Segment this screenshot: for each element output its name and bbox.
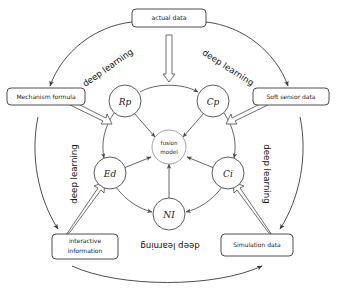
cp-label: Cp — [207, 97, 220, 107]
inner-node-ci[interactable]: Ci — [212, 157, 244, 189]
diagram-svg: actual data Mechanism formula Soft senso… — [0, 0, 337, 290]
fusion-model-label-line1: fusion — [161, 140, 178, 146]
arc-label-deep-learning-top-left: deep learning — [81, 46, 135, 88]
outer-box-interactive-information[interactable]: interactive information — [52, 234, 118, 259]
ed-label: Ed — [103, 169, 117, 179]
outer-box-simulation-data[interactable]: Simulation data — [221, 234, 293, 256]
block-arrow-actual-to-inner — [163, 35, 175, 82]
outer-box-mechanism-formula[interactable]: Mechanism formula — [7, 88, 85, 105]
arc-label-deep-learning-left: deep learning — [69, 144, 79, 203]
arc-label-deep-learning-right: deep learning — [262, 144, 272, 203]
outer-box-soft-sensor-data[interactable]: Soft sensor data — [253, 88, 329, 105]
outer-arc-mechanism-to-interactive — [35, 117, 58, 229]
interactive-information-label-line1: interactive — [69, 237, 102, 244]
inner-node-cp[interactable]: Cp — [197, 85, 229, 117]
arc-label-deep-learning-top-right: deep learning — [201, 47, 256, 88]
inner-arc-rp-to-cp — [140, 85, 198, 92]
diagram-canvas: actual data Mechanism formula Soft senso… — [0, 0, 337, 290]
inner-node-rp[interactable]: Rp — [109, 85, 141, 117]
fusion-model-label-line2: model — [160, 149, 178, 155]
spoke-cp-to-fusion — [183, 113, 204, 137]
inner-node-ed[interactable]: Ed — [94, 157, 126, 189]
outer-box-actual-data[interactable]: actual data — [132, 9, 206, 27]
inner-arc-ci-to-ni — [186, 187, 222, 212]
soft-sensor-data-label: Soft sensor data — [266, 93, 315, 100]
fusion-model-circle-shape — [152, 130, 186, 164]
spoke-ed-to-fusion — [124, 157, 151, 168]
inner-node-ni[interactable]: NI — [153, 198, 185, 230]
ni-label: NI — [162, 210, 175, 220]
spoke-ci-to-fusion — [187, 157, 214, 168]
arc-label-deep-learning-bottom: deep learning — [140, 241, 199, 251]
fusion-model-node[interactable]: fusion model — [152, 130, 186, 164]
inner-arc-ed-to-ni — [116, 187, 152, 212]
interactive-information-label-line2: information — [68, 247, 103, 254]
rp-label: Rp — [118, 97, 132, 107]
actual-data-label: actual data — [152, 14, 187, 21]
simulation-data-label: Simulation data — [233, 241, 281, 248]
mechanism-formula-label: Mechanism formula — [16, 93, 75, 100]
outer-arc-softsensor-to-simulation — [280, 117, 303, 229]
spoke-rp-to-fusion — [134, 113, 155, 137]
outer-arc-interactive-to-simulation — [72, 266, 262, 283]
ci-label: Ci — [223, 169, 233, 179]
